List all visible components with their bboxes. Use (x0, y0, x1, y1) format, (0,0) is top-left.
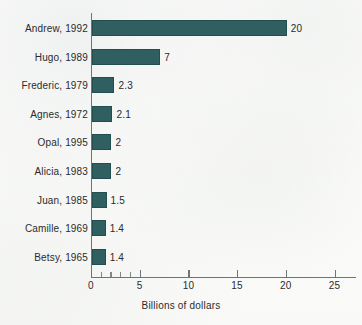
x-tick-label: 0 (88, 280, 94, 291)
bar-value-label: 2 (115, 166, 121, 177)
bar[interactable] (92, 220, 106, 236)
x-tick-minor (101, 272, 102, 277)
category-label: Opal, 1995 (38, 137, 88, 148)
bar-value-label: 20 (291, 23, 303, 34)
bar-row[interactable]: Betsy, 19651.4 (0, 247, 362, 267)
x-tick-label: 25 (329, 280, 341, 291)
x-tick-label: 20 (280, 280, 292, 291)
bar-value-label: 2 (115, 137, 121, 148)
bar-row[interactable]: Alicia, 19832 (0, 161, 362, 181)
category-label: Frederic, 1979 (21, 80, 88, 91)
bar[interactable] (92, 106, 112, 122)
x-tick-major (91, 270, 92, 277)
bar-row[interactable]: Opal, 19952 (0, 132, 362, 152)
bar-row[interactable]: Frederic, 19792.3 (0, 75, 362, 95)
x-axis-title: Billions of dollars (0, 300, 362, 311)
bar-value-label: 7 (164, 51, 170, 62)
x-tick-label: 5 (137, 280, 143, 291)
x-axis-line (91, 277, 356, 278)
bar[interactable] (92, 163, 111, 179)
bar-row[interactable]: Hugo, 19897 (0, 47, 362, 67)
bar[interactable] (92, 20, 287, 36)
bar-row[interactable]: Andrew, 199220 (0, 18, 362, 38)
bar[interactable] (92, 134, 111, 150)
category-label: Hugo, 1989 (35, 51, 88, 62)
bar-value-label: 1.4 (110, 223, 125, 234)
bar-row[interactable]: Agnes, 19722.1 (0, 104, 362, 124)
x-tick-major (140, 270, 141, 277)
x-tick-major (188, 270, 189, 277)
x-tick-label: 15 (231, 280, 243, 291)
bar-value-label: 2.1 (116, 108, 131, 119)
x-tick-major (286, 270, 287, 277)
bar-chart: Andrew, 199220Hugo, 19897Frederic, 19792… (0, 0, 362, 325)
x-tick-minor (130, 272, 131, 277)
bar-value-label: 1.4 (110, 251, 125, 262)
bar-row[interactable]: Camille, 19691.4 (0, 218, 362, 238)
x-tick-minor (110, 272, 111, 277)
category-label: Camille, 1969 (25, 223, 88, 234)
bar[interactable] (92, 249, 106, 265)
category-label: Juan, 1985 (37, 194, 88, 205)
category-label: Betsy, 1965 (34, 251, 88, 262)
category-label: Alicia, 1983 (35, 166, 89, 177)
x-tick-label: 10 (183, 280, 195, 291)
category-label: Agnes, 1972 (30, 108, 88, 119)
x-tick-minor (120, 272, 121, 277)
x-tick-major (335, 270, 336, 277)
category-label: Andrew, 1992 (25, 23, 88, 34)
bar-row[interactable]: Juan, 19851.5 (0, 190, 362, 210)
bar[interactable] (92, 77, 114, 93)
bar[interactable] (92, 192, 107, 208)
bar-value-label: 2.3 (118, 80, 133, 91)
bar-value-label: 1.5 (111, 194, 126, 205)
x-tick-major (237, 270, 238, 277)
bar[interactable] (92, 49, 160, 65)
